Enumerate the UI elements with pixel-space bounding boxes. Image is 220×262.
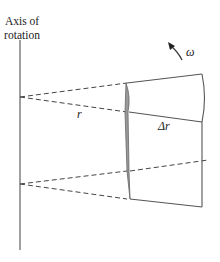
axis-of-rotation-label: Axis of rotation bbox=[0, 14, 44, 42]
axis-label-line1: Axis of bbox=[0, 14, 44, 28]
axis-label-line2: rotation bbox=[0, 28, 44, 42]
lower-dashed-radius-top bbox=[20, 171, 127, 184]
upper-dashed-radius-bottom bbox=[20, 97, 127, 112]
rotation-arrow bbox=[171, 46, 182, 60]
thin-element-sliver bbox=[125, 83, 130, 199]
block-right-curved-edge bbox=[202, 74, 205, 122]
block-top-edge bbox=[127, 74, 202, 83]
omega-label: ω bbox=[186, 45, 194, 60]
block-bottom-edge bbox=[130, 199, 202, 207]
upper-dashed-radius-top bbox=[20, 83, 127, 97]
lower-dashed-radius-bottom bbox=[20, 184, 127, 199]
radius-label: r bbox=[77, 107, 82, 122]
lower-dashed-extension bbox=[130, 160, 208, 171]
delta-r-label: Δr bbox=[158, 119, 170, 134]
